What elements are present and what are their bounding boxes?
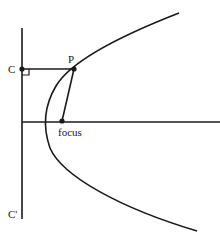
label-c: C [8, 63, 15, 75]
point-focus [59, 118, 64, 123]
point-c [19, 66, 24, 71]
point-p [71, 66, 76, 71]
label-focus: focus [58, 126, 82, 138]
label-c-prime: C' [8, 208, 17, 220]
label-p: P [68, 53, 74, 65]
parabola-diagram: C P focus C' [0, 0, 220, 238]
